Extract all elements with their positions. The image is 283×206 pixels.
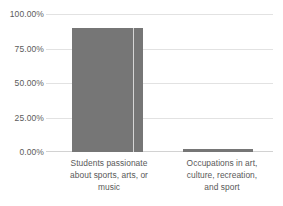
bar-chart: 100.00% 75.00% 50.00% 25.00% 0.00% Stude… bbox=[0, 0, 283, 206]
category-label-1-line-2: culture, recreation, bbox=[163, 169, 281, 181]
category-label-0-line-1: Students passionate bbox=[48, 157, 170, 169]
bar-students-passionate[interactable] bbox=[72, 28, 143, 152]
y-axis-tick-label-0: 0.00% bbox=[0, 148, 44, 157]
y-axis-tick-label-50: 50.00% bbox=[0, 79, 44, 88]
bar-occupations-art-culture[interactable] bbox=[183, 149, 253, 152]
category-label-1-line-1: Occupations in art, bbox=[163, 157, 281, 169]
category-label-0-line-3: music bbox=[48, 181, 170, 193]
x-axis-category-label-1: Occupations in art, culture, recreation,… bbox=[163, 157, 281, 194]
y-axis-tick-label-25: 25.00% bbox=[0, 114, 44, 123]
y-axis-tick-label-100: 100.00% bbox=[0, 10, 44, 19]
bar-seam-line bbox=[133, 28, 134, 152]
gridline-100 bbox=[46, 14, 273, 15]
plot-area bbox=[46, 14, 273, 152]
category-label-1-line-3: and sport bbox=[163, 181, 281, 193]
y-axis-tick-label-75: 75.00% bbox=[0, 45, 44, 54]
x-axis-category-label-0: Students passionate about sports, arts, … bbox=[48, 157, 170, 194]
category-label-0-line-2: about sports, arts, or bbox=[48, 169, 170, 181]
